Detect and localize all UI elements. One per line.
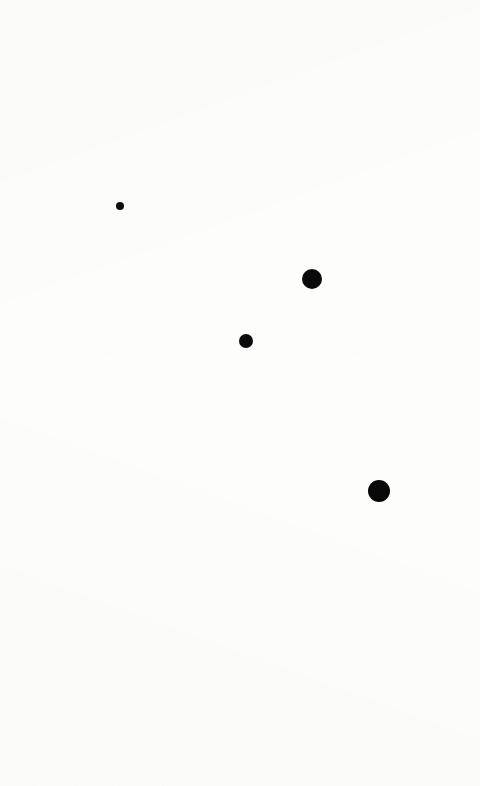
lollipop-marker-3[interactable] [239,334,253,348]
lollipop-row-3[interactable] [0,334,253,348]
lollipop-row-2[interactable] [0,269,322,289]
lollipop-row-1[interactable] [0,202,124,210]
lollipop-marker-5[interactable] [368,480,390,502]
lollipop-marker-1[interactable] [116,202,124,210]
lollipop-marker-2[interactable] [302,269,322,289]
chart-canvas [0,0,480,786]
lollipop-chart-plot [0,0,480,786]
lollipop-row-5[interactable] [0,480,390,502]
